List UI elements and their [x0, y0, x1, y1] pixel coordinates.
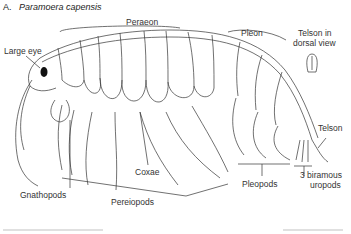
label-uropods-1: 3 biramous	[300, 171, 342, 180]
eye-pointer	[26, 56, 40, 68]
label-telson-dorsal-2: dorsal view	[293, 39, 336, 48]
label-uropods-2: uropods	[310, 181, 341, 190]
peraeon-bracket	[60, 26, 180, 32]
large-eye	[41, 67, 48, 77]
pereiopod	[86, 112, 92, 185]
label-gnathopods: Gnathopods	[20, 191, 66, 200]
peraeon-segments	[58, 31, 214, 88]
label-large-eye: Large eye	[4, 47, 42, 56]
cropped-caption-left	[3, 229, 103, 231]
dorsal-outline	[40, 30, 318, 138]
label-pleopods: Pleopods	[242, 180, 277, 189]
coxae-pointer	[140, 112, 148, 165]
label-telson-dorsal-1: Telson in	[298, 29, 332, 38]
telson-pointer	[318, 138, 326, 148]
label-coxae: Coxae	[135, 168, 160, 177]
label-pleon: Pleon	[241, 29, 263, 38]
coxae-plates	[62, 78, 214, 102]
pleopods-bracket	[238, 164, 290, 176]
label-telson: Telson	[318, 124, 343, 133]
cropped-caption-right	[283, 229, 343, 231]
label-pereiopods: Pereiopods	[111, 198, 154, 207]
label-peraeon: Peraeon	[126, 18, 158, 27]
